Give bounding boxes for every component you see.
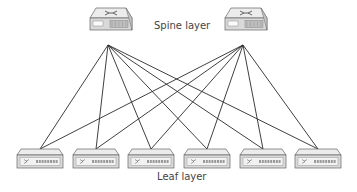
- leaf-switches: [17, 149, 341, 168]
- link-line: [108, 45, 263, 149]
- leaf-switch-icon: [17, 149, 63, 168]
- spine-switch-icon: [225, 8, 267, 30]
- link-line: [108, 45, 151, 149]
- link-line: [108, 45, 207, 149]
- link-line: [151, 45, 243, 149]
- leaf-switch-icon: [128, 149, 174, 168]
- spine-layer-label: Spine layer: [154, 20, 210, 31]
- leaf-switch-icon: [240, 149, 286, 168]
- spine-switch-icon: [90, 8, 132, 30]
- link-line: [243, 45, 263, 149]
- leaf-switch-icon: [73, 149, 119, 168]
- link-line: [243, 45, 318, 149]
- leaf-switch-icon: [184, 149, 230, 168]
- leaf-switch-icon: [295, 149, 341, 168]
- link-line: [96, 45, 243, 149]
- connection-links: [40, 45, 318, 149]
- leaf-layer-label: Leaf layer: [157, 171, 206, 182]
